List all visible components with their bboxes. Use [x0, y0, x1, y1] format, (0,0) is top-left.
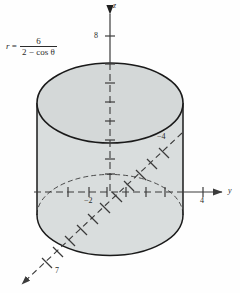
equation-numerator: 6 — [20, 37, 57, 46]
equation-fraction: 6 2 − cos θ — [20, 37, 57, 57]
equation-denominator: 2 − cos θ — [20, 46, 57, 57]
z-tick-label-8: 8 — [94, 32, 98, 40]
x-tick-label-neg4: −4 — [157, 133, 166, 141]
y-axis-label: y — [228, 187, 232, 195]
equation-lhs: r — [6, 41, 10, 51]
y-tick-label-4: 4 — [200, 197, 204, 205]
equation-equals: = — [12, 41, 17, 51]
polar-equation-label: r = 6 2 − cos θ — [6, 37, 58, 57]
z-axis-label: z — [113, 2, 116, 10]
y-tick-label-neg2: −2 — [84, 197, 93, 205]
x-tick-label-7: 7 — [55, 267, 59, 275]
